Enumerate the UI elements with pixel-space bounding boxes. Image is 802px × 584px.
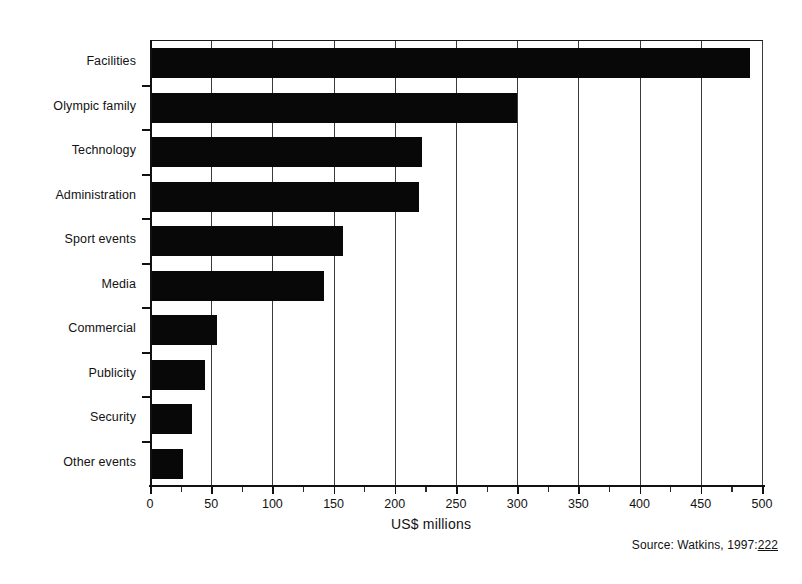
x-axis-tick-minor [303, 487, 304, 492]
bar[interactable] [150, 48, 750, 78]
x-axis-tick-major [272, 487, 274, 494]
x-axis-tick-minor [181, 487, 182, 492]
chart-block: FacilitiesOlympic familyTechnologyAdmini… [0, 0, 802, 584]
bar[interactable] [150, 271, 324, 301]
x-axis-tick-label: 0 [147, 497, 154, 511]
category-label: Publicity [89, 367, 136, 380]
x-axis-tick-minor [242, 487, 243, 492]
y-axis-tick [142, 218, 152, 220]
y-axis-tick [142, 352, 152, 354]
category-label: Administration [55, 189, 136, 202]
bar[interactable] [150, 360, 205, 390]
bar[interactable] [150, 226, 343, 256]
source-note-page: 222 [758, 538, 778, 552]
bar-row [150, 360, 762, 390]
x-axis-tick-major [762, 487, 764, 494]
x-axis-tick-minor [364, 487, 365, 492]
x-axis-tick-major [701, 487, 703, 494]
y-axis-tick [142, 263, 152, 265]
category-label: Security [90, 411, 136, 424]
bar-row [150, 271, 762, 301]
x-axis-tick-label: 350 [568, 497, 589, 511]
bar[interactable] [150, 404, 192, 434]
x-axis-tick-major [395, 487, 397, 494]
x-axis-tick-label: 100 [262, 497, 283, 511]
x-axis-tick-major [150, 487, 152, 494]
bar[interactable] [150, 93, 517, 123]
x-axis-tick-minor [487, 487, 488, 492]
bar[interactable] [150, 182, 419, 212]
x-axis-tick-label: 300 [507, 497, 528, 511]
x-axis-tick-label: 200 [384, 497, 405, 511]
x-axis-tick-minor [548, 487, 549, 492]
y-axis-tick [142, 85, 152, 87]
plot-area [150, 40, 763, 485]
bar[interactable] [150, 449, 183, 479]
bar-row [150, 93, 762, 123]
source-note: Source: Watkins, 1997:222 [632, 538, 778, 552]
category-label: Facilities [86, 55, 136, 68]
bar-row [150, 48, 762, 78]
bar-row [150, 315, 762, 345]
y-axis-tick [142, 441, 152, 443]
bar-row [150, 449, 762, 479]
bar-chart-figure: FacilitiesOlympic familyTechnologyAdmini… [0, 0, 802, 584]
bar[interactable] [150, 137, 422, 167]
y-axis-tick [142, 129, 152, 131]
x-axis-tick-label: 250 [446, 497, 467, 511]
x-axis-tick-major [578, 487, 580, 494]
x-axis-tick-major [334, 487, 336, 494]
y-axis-tick [142, 174, 152, 176]
x-axis-tick-label: 50 [204, 497, 218, 511]
x-axis-tick-label: 400 [629, 497, 650, 511]
category-label: Technology [72, 144, 136, 157]
category-label: Commercial [68, 322, 136, 335]
bar-row [150, 137, 762, 167]
category-label: Olympic family [53, 100, 136, 113]
bars-layer [150, 41, 762, 485]
x-axis-tick-major [517, 487, 519, 494]
x-axis-tick-label: 500 [752, 497, 773, 511]
x-axis-tick-major [456, 487, 458, 494]
bar-row [150, 404, 762, 434]
x-axis-tick-label: 450 [690, 497, 711, 511]
category-axis-labels: FacilitiesOlympic familyTechnologyAdmini… [0, 0, 144, 584]
bar-row [150, 226, 762, 256]
x-axis-tick-minor [670, 487, 671, 492]
source-note-prefix: Source: Watkins, 1997: [632, 538, 758, 552]
category-label: Media [101, 278, 136, 291]
x-axis-tick-minor [731, 487, 732, 492]
x-axis-title: US$ millions [0, 516, 802, 532]
y-axis-tick [142, 307, 152, 309]
x-axis-tick-label: 150 [323, 497, 344, 511]
category-label: Other events [63, 456, 136, 469]
y-axis-tick [142, 396, 152, 398]
x-axis-title-text: US$ millions [391, 516, 471, 532]
bar-row [150, 182, 762, 212]
x-axis-tick-major [640, 487, 642, 494]
x-axis-tick-minor [609, 487, 610, 492]
gridline-500 [762, 41, 763, 485]
x-axis-tick-major [211, 487, 213, 494]
x-axis-tick-minor [425, 487, 426, 492]
category-label: Sport events [65, 233, 136, 246]
bar[interactable] [150, 315, 217, 345]
